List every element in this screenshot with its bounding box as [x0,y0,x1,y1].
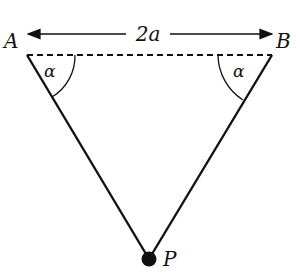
point-p-dot [142,252,157,267]
string-bp [149,55,272,259]
angle-label-right: α [233,61,245,81]
angle-label-left: α [44,61,56,81]
triangle-diagram: 2a A B α α P [0,0,301,275]
distance-label: 2a [135,22,161,46]
string-ap [27,55,149,259]
point-label-a: A [2,29,18,53]
point-label-p: P [162,247,177,271]
point-label-b: B [275,29,291,53]
